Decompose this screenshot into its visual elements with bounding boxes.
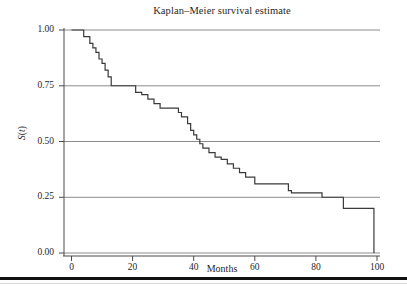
footer-rule-thin [0,283,407,284]
y-tick-label-0.00: 0.00 [20,247,54,257]
x-axis-ticks [72,256,378,261]
footer-rule [0,277,407,280]
y-tick-label-0.25: 0.25 [20,191,54,201]
y-tick-label-0.50: 0.50 [20,136,54,146]
plot-area [0,0,407,288]
x-axis-label: Months [64,263,380,274]
y-tick-label-1.00: 1.00 [20,24,54,34]
y-axis-ticks [59,30,64,253]
y-tick-label-0.75: 0.75 [20,80,54,90]
kaplan-meier-figure: Kaplan–Meier survival estimate S(t) [0,0,407,288]
gridlines [64,30,380,253]
